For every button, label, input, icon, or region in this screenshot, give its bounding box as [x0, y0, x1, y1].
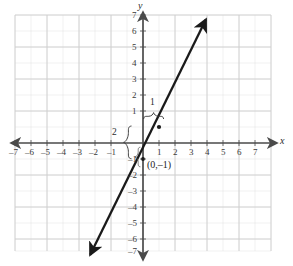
y-tick-label-4: 4 [132, 59, 137, 68]
x-tick-label-neg1: –1 [107, 148, 116, 157]
y-tick-label-3: 3 [132, 75, 137, 84]
y-tick-label-1: 1 [132, 107, 137, 116]
y-tick-label-neg2: –2 [128, 171, 137, 180]
x-tick-label-neg7: –7 [9, 148, 18, 157]
x-tick-label-2: 2 [173, 148, 178, 157]
y-tick-label-6: 6 [132, 27, 137, 36]
y-tick-label-neg1: –1 [128, 155, 137, 164]
x-tick-label-neg3: –3 [73, 148, 82, 157]
point-marker-one-one [157, 125, 161, 129]
x-tick-label-neg2: –2 [89, 148, 98, 157]
y-tick-label-neg3: –3 [128, 187, 137, 196]
x-tick-label-neg5: –5 [41, 148, 50, 157]
x-tick-label-3: 3 [189, 148, 194, 157]
run-label: 1 [150, 98, 155, 108]
y-axis-label: y [138, 1, 142, 11]
coordinate-plane [0, 0, 293, 266]
x-axis-label: x [280, 136, 284, 146]
y-tick-label-neg7: –7 [128, 247, 137, 256]
x-tick-label-4: 4 [205, 148, 210, 157]
point-marker-intercept [141, 157, 145, 161]
x-tick-label-1: 1 [157, 148, 162, 157]
x-tick-label-neg6: –6 [25, 148, 34, 157]
graph-figure: –7 –6 –5 –4 –3 –2 –1 1 2 3 4 5 6 7 7 6 5… [0, 0, 293, 266]
y-tick-label-neg4: –4 [128, 203, 137, 212]
y-tick-label-neg5: –5 [128, 219, 137, 228]
intercept-point-label: (0,–1) [147, 160, 171, 170]
x-tick-label-5: 5 [221, 148, 226, 157]
y-tick-label-2: 2 [132, 91, 137, 100]
x-tick-label-6: 6 [237, 148, 242, 157]
rise-label: 2 [112, 128, 117, 138]
x-tick-label-neg4: –4 [57, 148, 66, 157]
y-tick-label-5: 5 [132, 43, 137, 52]
plotted-line [90, 19, 206, 254]
x-tick-label-7: 7 [253, 148, 258, 157]
y-tick-label-neg6: –6 [128, 235, 137, 244]
y-tick-label-7: 7 [132, 11, 137, 20]
